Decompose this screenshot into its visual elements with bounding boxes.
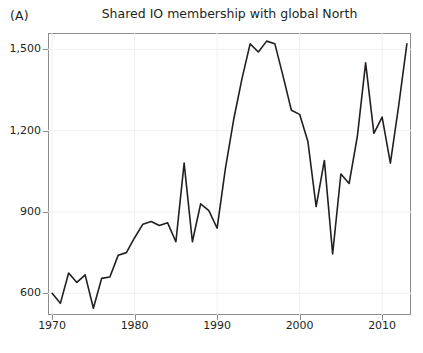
- x-tick-mark: [382, 315, 383, 320]
- y-tick-label: 900: [3, 205, 41, 218]
- x-tick-mark: [135, 315, 136, 320]
- x-axis: 19701980199020002010: [0, 319, 423, 339]
- y-tick-label: 1,500: [3, 42, 41, 55]
- x-tick-label: 1980: [105, 319, 165, 332]
- x-tick-mark: [217, 315, 218, 320]
- y-tick-mark: [43, 131, 48, 132]
- vertical-gridlines: [52, 33, 382, 315]
- x-tick-label: 1970: [22, 319, 82, 332]
- x-tick-label: 2010: [352, 319, 412, 332]
- y-tick-label: 1,200: [3, 124, 41, 137]
- y-tick-mark: [43, 49, 48, 50]
- chart-title: Shared IO membership with global North: [48, 6, 411, 21]
- y-axis: 6009001,2001,500: [0, 0, 41, 353]
- line-chart-plot: [48, 33, 411, 315]
- x-tick-mark: [300, 315, 301, 320]
- data-series-line: [52, 41, 407, 308]
- figure-panel-a: (A) Shared IO membership with global Nor…: [0, 0, 423, 353]
- x-tick-label: 2000: [270, 319, 330, 332]
- horizontal-gridlines: [48, 49, 411, 293]
- x-tick-label: 1990: [187, 319, 247, 332]
- y-tick-label: 600: [3, 286, 41, 299]
- y-tick-mark: [43, 293, 48, 294]
- x-tick-mark: [52, 315, 53, 320]
- y-tick-mark: [43, 212, 48, 213]
